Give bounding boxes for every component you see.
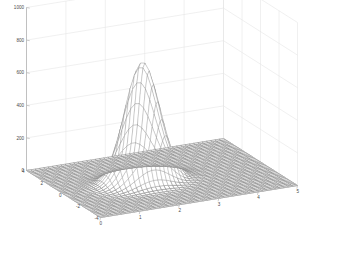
z-tick-label-200: 200 bbox=[16, 136, 24, 141]
plot-background bbox=[0, 0, 338, 255]
y-tick-label-neg4: -4 bbox=[94, 216, 99, 221]
z-tick-label-1000: 1000 bbox=[14, 5, 25, 10]
y-tick-label-neg2: -2 bbox=[76, 204, 81, 209]
surface-plot-svg: 02004006008001000420-2-4012345 bbox=[0, 0, 338, 255]
z-tick-label-800: 800 bbox=[16, 38, 24, 43]
x-tick-label-5: 5 bbox=[297, 189, 300, 194]
x-tick-label-2: 2 bbox=[178, 208, 181, 213]
x-tick-label-1: 1 bbox=[139, 215, 142, 220]
y-tick-label-0: 0 bbox=[59, 193, 62, 198]
x-tick-label-4: 4 bbox=[257, 195, 260, 200]
x-tick-label-0: 0 bbox=[100, 221, 103, 226]
y-tick-label-4: 4 bbox=[22, 169, 25, 174]
z-tick-label-600: 600 bbox=[16, 70, 24, 75]
y-tick-label-2: 2 bbox=[40, 181, 43, 186]
x-tick-label-3: 3 bbox=[218, 202, 221, 207]
figure-canvas: 02004006008001000420-2-4012345 bbox=[0, 0, 338, 255]
z-tick-label-400: 400 bbox=[16, 103, 24, 108]
